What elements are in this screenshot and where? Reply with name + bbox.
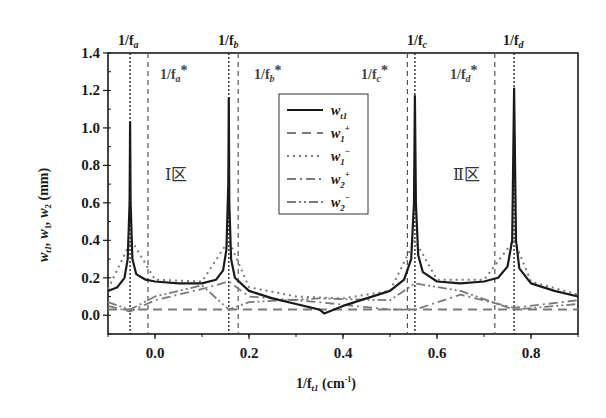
y-tick-label: 0.2 bbox=[81, 270, 100, 286]
x-tick-label: 0.2 bbox=[240, 345, 259, 361]
marker-label-fc-star: 1/fc* bbox=[361, 63, 388, 84]
y-tick-label: 1.4 bbox=[81, 45, 100, 61]
marker-label-fa: 1/fa bbox=[118, 33, 139, 50]
chart-figure: 0.00.20.40.60.80.00.20.40.60.81.01.21.4 … bbox=[0, 0, 606, 418]
x-tick-label: 0.0 bbox=[146, 345, 165, 361]
x-axis-title: 1/ft1 (cm-1) bbox=[296, 375, 356, 393]
region-2-label: Ⅱ区 bbox=[453, 166, 480, 183]
y-tick-label: 0.0 bbox=[81, 307, 100, 323]
marker-label-fb-star: 1/fb* bbox=[254, 63, 282, 84]
marker-label-fa-star: 1/fa* bbox=[160, 63, 188, 84]
y-tick-label: 0.4 bbox=[81, 232, 100, 248]
marker-label-fd-star: 1/fd* bbox=[450, 63, 478, 84]
x-tick-label: 0.6 bbox=[428, 345, 447, 361]
x-tick-label: 0.4 bbox=[334, 345, 353, 361]
series-line-w1 bbox=[108, 240, 578, 298]
marker-label-fb: 1/fb bbox=[218, 33, 239, 50]
region-1-label: Ⅰ区 bbox=[165, 166, 187, 183]
y-tick-label: 1.2 bbox=[81, 82, 100, 98]
marker-label-fd: 1/fd bbox=[503, 33, 525, 50]
y-tick-label: 0.8 bbox=[81, 157, 100, 173]
y-tick-label: 0.6 bbox=[81, 195, 100, 211]
legend-box bbox=[279, 94, 368, 214]
marker-label-fc: 1/fc bbox=[407, 33, 428, 50]
legend: wt1w1+w1−w2+w2− bbox=[279, 94, 368, 214]
x-tick-label: 0.8 bbox=[522, 345, 541, 361]
y-axis-title: wt1, w1, w2 (mm) bbox=[36, 167, 53, 262]
y-tick-label: 1.0 bbox=[81, 120, 100, 136]
